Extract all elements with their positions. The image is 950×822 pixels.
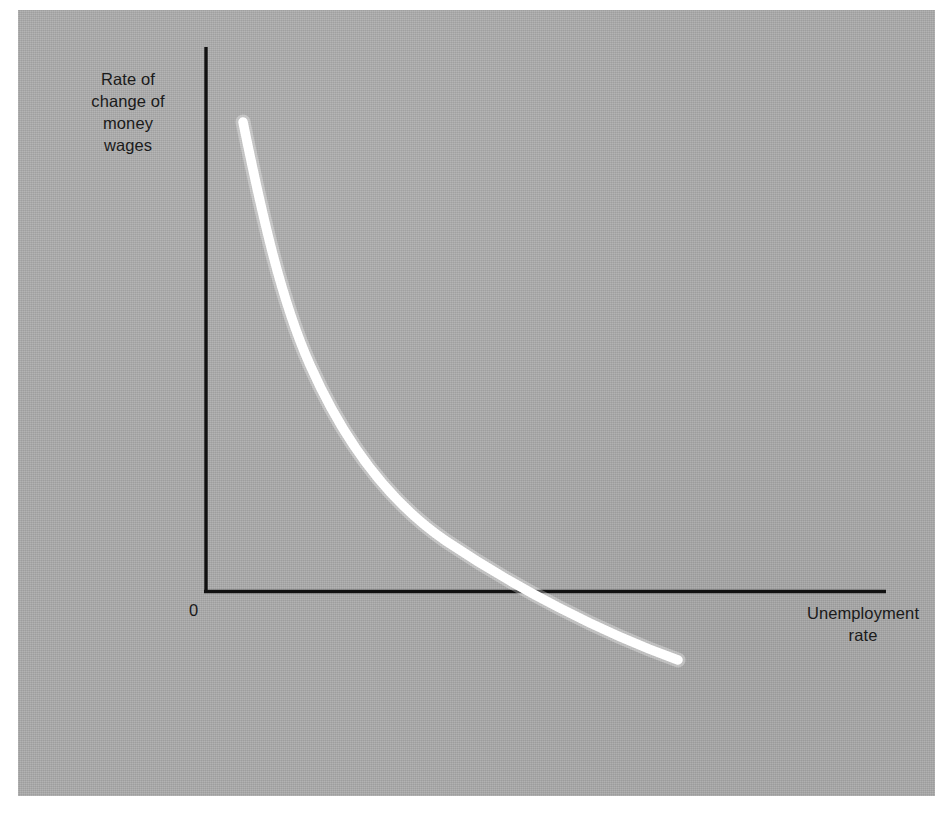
origin-label: 0	[189, 600, 198, 620]
y-axis-label: Rate of change of money wages	[60, 68, 196, 156]
phillips-curve	[243, 122, 678, 660]
phillips-curve-figure: Rate of change of money wages Unemployme…	[0, 0, 950, 822]
x-axis-label: Unemployment rate	[790, 602, 936, 646]
phillips-curve-shadow	[243, 122, 678, 660]
